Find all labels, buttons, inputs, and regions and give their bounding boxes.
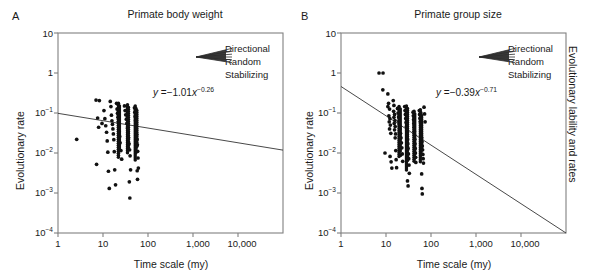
figure-root: A Primate body weight Evolutionary rate … bbox=[0, 0, 597, 279]
panel-b: B Primate group size Evolutionary rate E… bbox=[291, 0, 597, 279]
panel-a-canvas bbox=[0, 0, 300, 279]
panel-a: A Primate body weight Evolutionary rate … bbox=[0, 0, 300, 279]
panel-b-canvas bbox=[291, 0, 597, 279]
